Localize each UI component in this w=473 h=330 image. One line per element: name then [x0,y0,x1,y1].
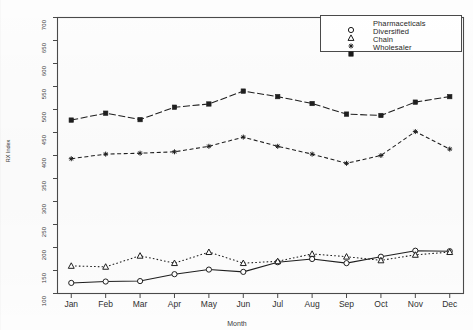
x-axis-tick-label: Mar [123,299,157,309]
y-axis-tick-label: 400 [41,154,47,172]
y-axis-tick-label: 650 [41,39,47,57]
chart-legend: PharmaceticalsDiversifiedChainWholesaler [320,15,462,52]
legend-label: Wholesaler [373,44,412,52]
x-axis-title: Month [207,320,267,327]
x-axis-tick-label: Nov [398,299,432,309]
x-axis-tick-label: Dec [433,299,467,309]
y-axis-title: RX Index [5,121,11,181]
y-axis-tick-label: 550 [41,85,47,103]
chart-figure: 100150200250300350400450500550600650700 … [0,0,473,330]
asterisk-icon [343,36,359,44]
x-axis-tick-label: Jun [226,299,260,309]
y-axis-tick-label: 350 [41,177,47,195]
circle-open-icon [343,20,359,28]
x-axis-tick-label: May [192,299,226,309]
x-axis-tick-label: Feb [89,299,123,309]
square-filled-icon [343,44,359,52]
y-axis-tick-label: 100 [41,292,47,310]
y-axis-tick-label: 200 [41,246,47,264]
x-axis-tick-label: Jan [54,299,88,309]
x-axis-tick-label: Oct [364,299,398,309]
y-axis-tick-label: 250 [41,223,47,241]
y-axis-tick-label: 600 [41,62,47,80]
x-axis-tick-label: Sep [330,299,364,309]
x-axis-tick-label: Apr [157,299,191,309]
y-axis-tick-label: 700 [41,16,47,34]
y-axis-tick-label: 450 [41,131,47,149]
y-axis-tick-label: 300 [41,200,47,218]
triangle-open-icon [343,28,359,36]
y-axis-tick-label: 150 [41,269,47,287]
legend-item: Wholesaler [321,44,461,52]
x-axis-tick-label: Jul [261,299,295,309]
x-axis-tick-label: Aug [295,299,329,309]
y-axis-tick-label: 500 [41,108,47,126]
